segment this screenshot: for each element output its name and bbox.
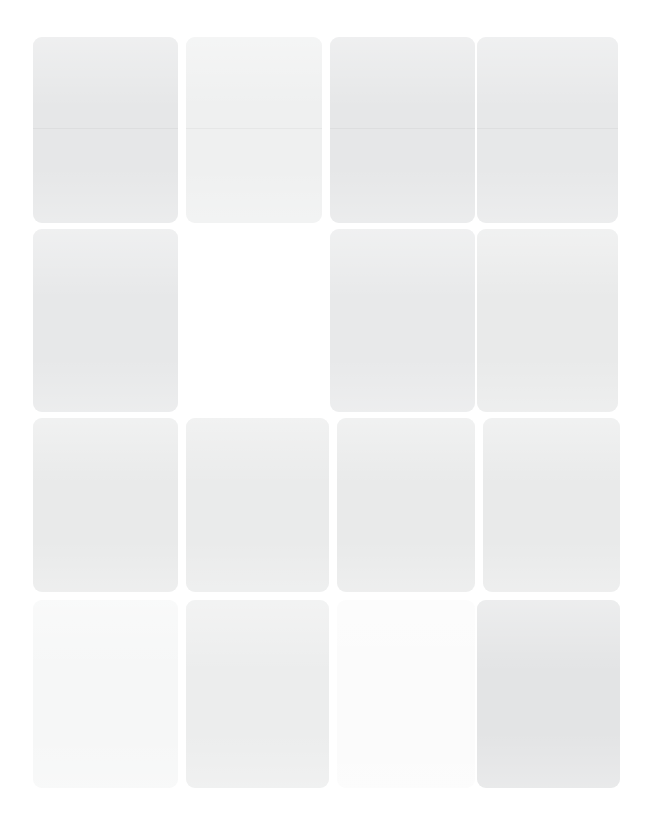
card-sheen-overlay	[330, 229, 475, 412]
card-divider	[477, 128, 618, 129]
card-divider	[330, 128, 475, 129]
placeholder-card[interactable]	[330, 229, 475, 412]
card-sheen-overlay	[186, 600, 329, 788]
placeholder-card-grid	[0, 0, 650, 839]
card-sheen-overlay	[477, 600, 620, 788]
placeholder-card[interactable]	[33, 600, 178, 788]
placeholder-card[interactable]	[330, 37, 475, 223]
placeholder-card[interactable]	[337, 418, 475, 592]
placeholder-card[interactable]	[33, 229, 178, 412]
placeholder-card[interactable]	[483, 418, 620, 592]
empty-grid-slot	[186, 229, 322, 412]
card-divider	[186, 128, 322, 129]
card-sheen-overlay	[477, 229, 618, 412]
placeholder-card[interactable]	[186, 600, 329, 788]
placeholder-card[interactable]	[477, 600, 620, 788]
card-sheen-overlay	[186, 418, 329, 592]
card-sheen-overlay	[337, 418, 475, 592]
placeholder-card[interactable]	[337, 600, 475, 788]
placeholder-card[interactable]	[33, 37, 178, 223]
card-divider	[33, 128, 178, 129]
placeholder-card[interactable]	[477, 229, 618, 412]
card-sheen-overlay	[483, 418, 620, 592]
card-sheen-overlay	[33, 37, 178, 223]
placeholder-card[interactable]	[477, 37, 618, 223]
card-sheen-overlay	[186, 37, 322, 223]
card-sheen-overlay	[33, 600, 178, 788]
card-sheen-overlay	[330, 37, 475, 223]
card-sheen-overlay	[337, 600, 475, 788]
placeholder-card[interactable]	[186, 37, 322, 223]
card-sheen-overlay	[33, 418, 178, 592]
placeholder-card[interactable]	[186, 418, 329, 592]
placeholder-card[interactable]	[33, 418, 178, 592]
card-sheen-overlay	[477, 37, 618, 223]
card-sheen-overlay	[33, 229, 178, 412]
